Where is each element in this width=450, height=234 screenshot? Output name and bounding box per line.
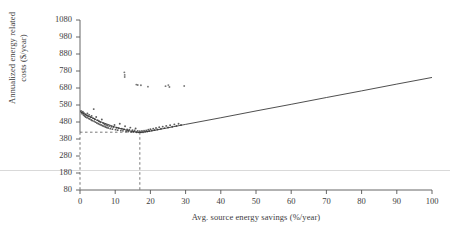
x-axis-tick-label: 30: [173, 196, 199, 206]
data-point: [152, 128, 154, 130]
x-axis-tick-label: 10: [102, 196, 128, 206]
data-point: [168, 86, 170, 88]
x-axis-tick-label: 50: [243, 196, 269, 206]
fitted-cost-curve: [80, 77, 432, 132]
x-axis-tick-label: 0: [67, 196, 93, 206]
data-point: [124, 125, 126, 127]
data-point: [178, 123, 180, 125]
data-point: [165, 125, 167, 127]
data-point: [95, 116, 97, 118]
data-point: [173, 123, 175, 125]
data-point: [120, 130, 122, 132]
chart-figure: Annualized energy related costs ($/year)…: [0, 0, 450, 234]
data-point: [167, 84, 169, 86]
y-axis-tick-label: 480: [38, 116, 72, 126]
x-axis-tick-label: 90: [384, 196, 410, 206]
data-point: [158, 126, 160, 128]
data-point: [86, 113, 88, 115]
y-axis-tick-label: 980: [38, 31, 72, 41]
data-point: [91, 115, 93, 117]
data-point: [91, 120, 93, 122]
data-point: [101, 119, 103, 121]
data-point: [169, 124, 171, 126]
x-axis-tick-label: 100: [419, 196, 445, 206]
x-axis-tick-label: 40: [208, 196, 234, 206]
data-point: [147, 86, 149, 88]
data-point: [140, 84, 142, 86]
x-axis-tick-label: 80: [349, 196, 375, 206]
y-axis-tick-label: 880: [38, 48, 72, 58]
y-axis-tick-label: 280: [38, 150, 72, 160]
data-point: [155, 127, 157, 129]
data-point: [115, 129, 117, 131]
data-point: [137, 84, 139, 86]
data-point: [119, 123, 121, 125]
data-point: [93, 108, 95, 110]
data-point: [117, 129, 119, 131]
y-axis-tick-label: 680: [38, 82, 72, 92]
y-axis-tick-label: 80: [38, 184, 72, 194]
y-axis-tick-label: 1080: [38, 14, 72, 24]
data-point: [107, 127, 109, 129]
x-axis-tick-label: 20: [137, 196, 163, 206]
x-axis-tick-label: 70: [313, 196, 339, 206]
x-axis-tick-label: 60: [278, 196, 304, 206]
data-point: [183, 85, 185, 87]
data-point: [135, 128, 137, 130]
y-axis-tick-label: 780: [38, 65, 72, 75]
data-point: [124, 74, 126, 76]
y-axis-tick-label: 380: [38, 133, 72, 143]
data-point: [162, 126, 164, 128]
y-axis-tick-label: 180: [38, 167, 72, 177]
data-point: [165, 85, 167, 87]
y-axis-tick-label: 580: [38, 99, 72, 109]
data-point: [114, 124, 116, 126]
data-point: [122, 130, 124, 132]
data-point: [124, 76, 126, 78]
data-point: [111, 128, 113, 130]
data-point: [109, 128, 111, 130]
data-point: [123, 71, 125, 73]
data-point: [129, 127, 131, 129]
